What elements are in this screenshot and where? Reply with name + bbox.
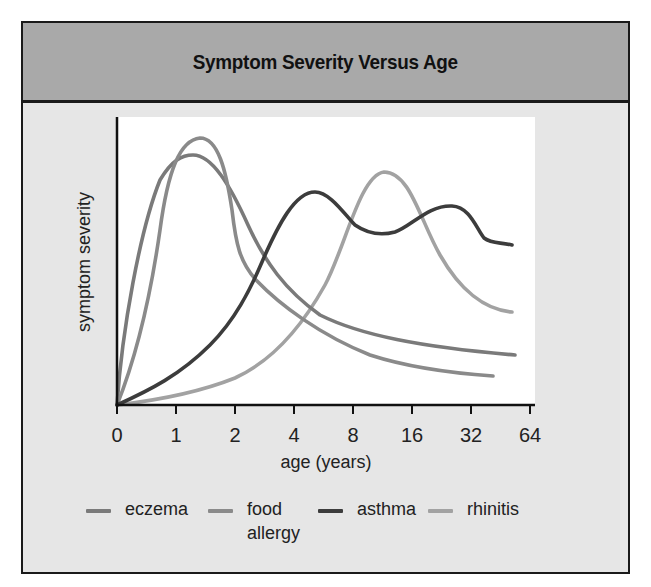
legend-label-line2: allergy [247, 522, 300, 544]
legend-swatch-rhinitis [428, 509, 453, 513]
legend-swatch-food-allergy [208, 509, 233, 513]
x-tick-labels: 0 1 2 4 8 16 32 64 [0, 424, 651, 448]
x-tick-label: 0 [111, 424, 122, 447]
y-axis-label: symptom severity [74, 192, 95, 332]
legend-label: food [247, 498, 300, 520]
legend-label: rhinitis [467, 498, 519, 520]
x-tick-label: 32 [460, 424, 482, 447]
legend-swatch-asthma [318, 509, 343, 513]
legend-item-asthma: asthma [318, 498, 416, 520]
x-tick-label: 8 [347, 424, 358, 447]
legend-label: asthma [357, 498, 416, 520]
legend-label-group: food allergy [247, 498, 300, 544]
legend-item-rhinitis: rhinitis [428, 498, 519, 520]
x-tick-label: 64 [519, 424, 541, 447]
legend-swatch-eczema [86, 509, 111, 513]
x-tick-label: 2 [229, 424, 240, 447]
x-tick-label: 1 [170, 424, 181, 447]
legend-label: eczema [125, 498, 188, 520]
x-axis-ticks [117, 405, 530, 414]
x-tick-label: 4 [288, 424, 299, 447]
legend-item-eczema: eczema [86, 498, 188, 520]
legend: eczema food allergy asthma rhinitis [86, 498, 546, 548]
x-axis-label: age (years) [280, 452, 371, 473]
x-tick-label: 16 [401, 424, 423, 447]
legend-item-food-allergy: food allergy [208, 498, 300, 544]
